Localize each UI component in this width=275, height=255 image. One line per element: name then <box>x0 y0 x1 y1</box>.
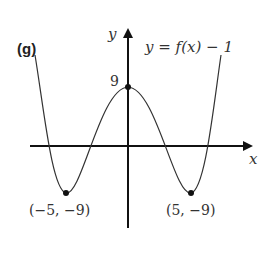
graph: (g) y x y = f(x) − 1 9 (−5, −9) (5, −9) <box>0 0 275 255</box>
min-left-label: (−5, −9) <box>29 202 90 218</box>
point-min-right <box>188 190 194 196</box>
function-label: y = f(x) − 1 <box>144 38 233 56</box>
panel-label: (g) <box>17 40 36 57</box>
y-tick-9: 9 <box>110 73 119 89</box>
point-min-left <box>63 190 69 196</box>
x-axis-label: x <box>249 150 258 168</box>
y-axis-label: y <box>107 25 117 43</box>
point-max <box>125 84 131 90</box>
min-right-label: (5, −9) <box>166 202 215 218</box>
